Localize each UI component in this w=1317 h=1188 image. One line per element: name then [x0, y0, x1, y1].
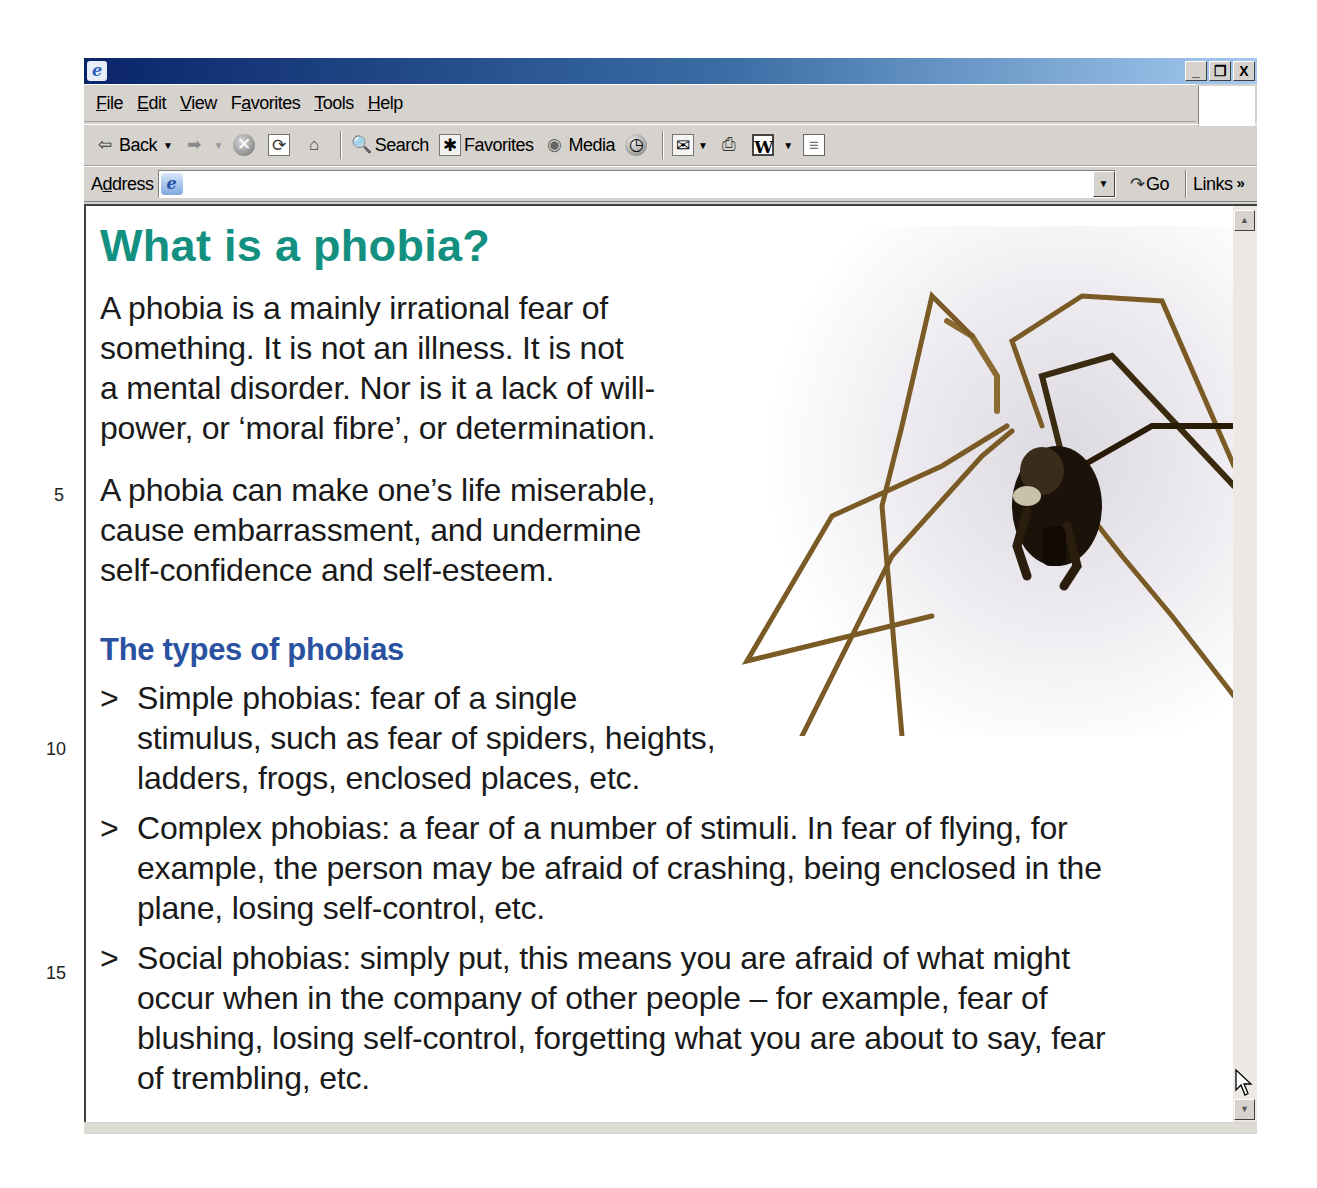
history-button[interactable]: ◷ — [625, 134, 650, 156]
print-icon: ⎙ — [717, 134, 739, 156]
throbber-box — [1198, 86, 1255, 126]
home-button[interactable]: ⌂ — [303, 134, 328, 156]
links-button[interactable]: Links» — [1193, 174, 1244, 195]
text-line: occur when in the company of other peopl… — [137, 978, 1240, 1018]
bullet-marker: > — [100, 678, 119, 718]
back-dropdown-icon[interactable]: ▼ — [163, 140, 172, 151]
menu-file-label: ile — [107, 93, 124, 113]
go-button[interactable]: ↷ Go — [1130, 173, 1170, 195]
history-icon: ◷ — [625, 134, 647, 156]
phobia-types-list: > Simple phobias: fear of a single stimu… — [100, 678, 1240, 1098]
text-line: self-confidence and self-esteem. — [100, 550, 1240, 590]
go-label: Go — [1146, 174, 1169, 195]
window-controls: _ ❐ X — [1185, 61, 1255, 81]
text-line: example, the person may be afraid of cra… — [137, 848, 1240, 888]
paragraph-effects: A phobia can make one’s life miserable, … — [100, 470, 1240, 590]
line-number-15: 15 — [46, 963, 66, 984]
text-line: of trembling, etc. — [137, 1058, 1240, 1098]
browser-window: e _ ❐ X File Edit View Favorites Tools H… — [84, 58, 1257, 1134]
page-title: What is a phobia? — [100, 220, 1240, 272]
back-arrow-icon: ⇦ — [94, 134, 116, 156]
menu-file-accel: F — [96, 93, 107, 113]
text-line: something. It is not an illness. It is n… — [100, 328, 1240, 368]
address-input[interactable] — [183, 172, 1115, 196]
text-line: A phobia can make one’s life miserable, — [100, 470, 1240, 510]
word-edit-icon: W — [752, 134, 774, 156]
discuss-button[interactable]: ≡ — [803, 134, 828, 156]
address-bar: Address e ▼ ↷ Go Links» — [84, 166, 1257, 202]
menu-bar: File Edit View Favorites Tools Help — [84, 84, 1196, 122]
toolbar-separator — [340, 131, 342, 159]
close-button[interactable]: X — [1233, 61, 1255, 81]
favorites-button[interactable]: ✱ Favorites — [439, 134, 534, 156]
text-line: Social phobias: simply put, this means y… — [137, 938, 1240, 978]
status-bar — [84, 1123, 1257, 1133]
chevron-right-icon: » — [1237, 174, 1245, 191]
menu-favorites-label: vorites — [251, 93, 301, 113]
forward-dropdown-icon[interactable]: ▼ — [213, 140, 222, 151]
mail-dropdown-icon[interactable]: ▼ — [698, 140, 707, 151]
menu-edit[interactable]: Edit — [137, 93, 166, 114]
edit-button[interactable]: W ▼ — [752, 134, 792, 156]
menu-view-accel: V — [180, 93, 191, 113]
menu-help[interactable]: Help — [368, 93, 403, 114]
address-field[interactable]: e ▼ — [158, 170, 1116, 198]
restore-button[interactable]: ❐ — [1209, 61, 1231, 81]
back-button[interactable]: ⇦ Back ▼ — [94, 134, 172, 156]
ie-app-icon[interactable]: e — [87, 61, 107, 81]
scroll-down-button[interactable]: ▼ — [1234, 1099, 1255, 1120]
go-arrow-icon: ↷ — [1130, 173, 1145, 195]
address-label-accel: d — [103, 174, 113, 194]
favorites-label: Favorites — [464, 135, 534, 156]
text-line: cause embarrassment, and undermine — [100, 510, 1240, 550]
menu-favorites-pre: F — [231, 93, 242, 113]
title-bar[interactable]: e _ ❐ X — [84, 58, 1257, 84]
print-button[interactable]: ⎙ — [717, 134, 742, 156]
links-separator — [1185, 170, 1187, 198]
edit-dropdown-icon[interactable]: ▼ — [783, 140, 792, 151]
text-line: plane, losing self-control, etc. — [137, 888, 1240, 928]
menu-file[interactable]: File — [96, 93, 123, 114]
forward-arrow-icon: ➡ — [182, 134, 204, 156]
address-dropdown-icon[interactable]: ▼ — [1093, 171, 1115, 197]
menu-tools-accel: T — [314, 93, 323, 113]
home-icon: ⌂ — [303, 134, 325, 156]
mail-icon: ✉ — [672, 134, 694, 156]
minimize-button[interactable]: _ — [1185, 61, 1207, 81]
refresh-button[interactable]: ⟳ — [268, 134, 293, 156]
toolbar-separator — [662, 131, 664, 159]
menu-favorites-accel: a — [241, 93, 251, 113]
media-button[interactable]: ◉ Media — [543, 134, 615, 156]
bullet-marker: > — [100, 938, 119, 978]
menu-tools[interactable]: Tools — [314, 93, 354, 114]
links-label: Links — [1193, 174, 1233, 194]
line-number-10: 10 — [46, 739, 66, 760]
text-line: blushing, losing self-control, forgettin… — [137, 1018, 1240, 1058]
text-line: Complex phobias: a fear of a number of s… — [137, 808, 1240, 848]
address-label-pre: A — [91, 174, 103, 194]
text-line: stimulus, such as fear of spiders, heigh… — [137, 718, 1240, 758]
menu-help-accel: H — [368, 93, 381, 113]
search-button[interactable]: 🔍 Search — [350, 134, 429, 156]
search-label: Search — [375, 135, 429, 156]
stop-button[interactable]: ✕ — [233, 134, 258, 156]
mail-button[interactable]: ✉ ▼ — [672, 134, 707, 156]
menu-favorites[interactable]: Favorites — [231, 93, 301, 114]
vertical-scrollbar[interactable]: ▲ ▼ — [1233, 206, 1257, 1122]
text-line: Simple phobias: fear of a single — [137, 678, 1240, 718]
text-line: a mental disorder. Nor is it a lack of w… — [100, 368, 1240, 408]
forward-button[interactable]: ➡ ▼ — [182, 134, 222, 156]
list-item-simple: > Simple phobias: fear of a single stimu… — [100, 678, 1240, 798]
refresh-icon: ⟳ — [268, 134, 290, 156]
line-number-5: 5 — [54, 485, 64, 506]
media-label: Media — [568, 135, 615, 156]
bullet-marker: > — [100, 808, 119, 848]
address-label-rest: dress — [112, 174, 154, 194]
paragraph-intro: A phobia is a mainly irrational fear of … — [100, 288, 1240, 448]
menu-help-label: elp — [380, 93, 403, 113]
mouse-cursor-icon — [1234, 1068, 1254, 1098]
back-label: Back — [119, 135, 157, 156]
menu-view[interactable]: View — [180, 93, 217, 114]
scroll-up-button[interactable]: ▲ — [1234, 210, 1255, 231]
text-line: ladders, frogs, enclosed places, etc. — [137, 758, 1240, 798]
